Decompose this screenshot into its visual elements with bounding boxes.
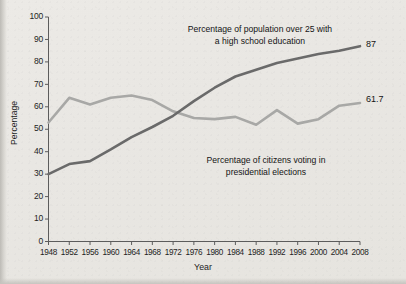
y-tick-label: 80 (21, 57, 43, 66)
y-tick-label: 0 (21, 237, 43, 246)
chart-page: 0102030405060708090100 19481952195619601… (0, 0, 406, 284)
x-tick-label: 2008 (348, 248, 372, 257)
series-line-voting (49, 96, 361, 125)
y-tick-label: 20 (21, 192, 43, 201)
end-value-voting: 61.7 (366, 94, 384, 104)
y-tick-label: 100 (21, 12, 43, 21)
y-tick-label: 10 (21, 214, 43, 223)
annotation-voting: Percentage of citizens voting in preside… (186, 155, 346, 178)
y-axis-ticks (45, 17, 49, 242)
axis-lines (48, 17, 360, 242)
x-axis-title: Year (0, 262, 406, 272)
end-value-education: 87 (366, 39, 376, 49)
y-tick-label: 70 (21, 80, 43, 89)
y-tick-label: 40 (21, 147, 43, 156)
y-tick-label: 30 (21, 169, 43, 178)
annotation-education: Percentage of population over 25 with a … (175, 24, 345, 47)
y-tick-label: 50 (21, 124, 43, 133)
y-axis-title: Percentage (9, 88, 19, 158)
y-tick-label: 60 (21, 102, 43, 111)
x-axis-ticks (49, 242, 361, 246)
y-tick-label: 90 (21, 35, 43, 44)
